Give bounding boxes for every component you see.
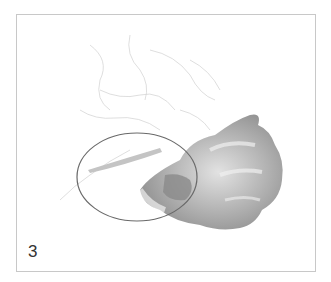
illustration (0, 0, 331, 282)
step-number-label: 3 (28, 242, 37, 262)
shaded-form (88, 114, 283, 229)
